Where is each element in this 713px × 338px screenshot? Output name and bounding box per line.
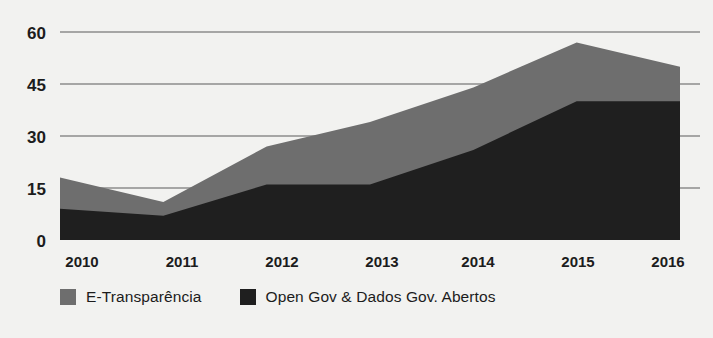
x-tick-2012: 2012 (265, 253, 298, 270)
y-axis-labels: 60 45 30 15 0 (27, 24, 46, 251)
stacked-area-chart: 60 45 30 15 0 2010 2011 2012 2013 2014 2… (0, 0, 713, 338)
x-axis-labels: 2010 2011 2012 2013 2014 2015 2016 (65, 253, 684, 270)
x-tick-2013: 2013 (365, 253, 398, 270)
plot-area: 60 45 30 15 0 2010 2011 2012 2013 2014 2… (0, 0, 713, 280)
x-tick-2011: 2011 (166, 253, 199, 270)
legend-item-e-transparencia[interactable]: E-Transparência (60, 288, 202, 306)
chart-svg: 60 45 30 15 0 2010 2011 2012 2013 2014 2… (0, 0, 713, 280)
legend-swatch-e-transparencia-icon (60, 289, 76, 305)
legend-swatch-open-gov-icon (240, 289, 256, 305)
y-tick-45: 45 (27, 76, 46, 95)
y-tick-30: 30 (27, 128, 46, 147)
legend-label-e-transparencia: E-Transparência (86, 288, 202, 306)
x-tick-2015: 2015 (561, 253, 594, 270)
series-areas (60, 42, 680, 240)
legend-label-open-gov: Open Gov & Dados Gov. Abertos (266, 288, 496, 306)
x-tick-2014: 2014 (461, 253, 495, 270)
y-tick-60: 60 (27, 24, 46, 43)
y-tick-0: 0 (37, 232, 46, 251)
y-tick-15: 15 (27, 180, 46, 199)
chart-legend: E-Transparência Open Gov & Dados Gov. Ab… (60, 288, 496, 306)
legend-item-open-gov[interactable]: Open Gov & Dados Gov. Abertos (240, 288, 496, 306)
x-tick-2016: 2016 (651, 253, 684, 270)
x-tick-2010: 2010 (65, 253, 98, 270)
